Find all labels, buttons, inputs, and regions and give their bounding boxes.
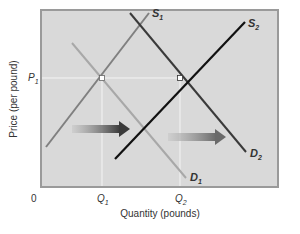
- equilibrium-point-2: [178, 76, 183, 81]
- plot-area: [41, 10, 278, 187]
- y-tick-p1: P1: [28, 72, 39, 85]
- x-axis-title: Quantity (pounds): [120, 208, 200, 219]
- supply-demand-chart: S1 S2 D1 D2 P1 0 Q1 Q2 Quantity (pounds)…: [0, 0, 300, 234]
- x-tick-q2: Q2: [175, 193, 187, 206]
- x-tick-origin: 0: [31, 193, 37, 204]
- y-axis-title: Price (per pound): [8, 60, 19, 137]
- x-tick-q1: Q1: [97, 193, 109, 206]
- equilibrium-point-1: [100, 76, 105, 81]
